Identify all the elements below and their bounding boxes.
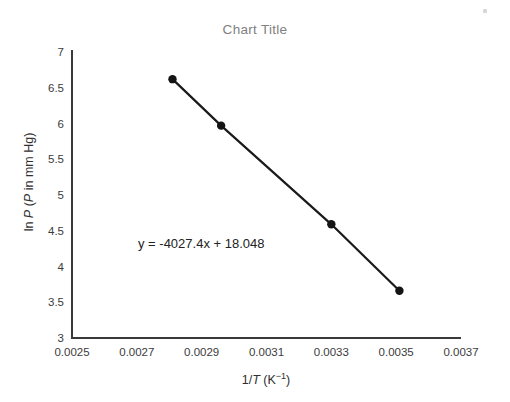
x-tick-label: 0.0031	[249, 346, 284, 358]
y-axis-title: ln P (P in mm Hg)	[22, 67, 36, 297]
data-series-plot	[0, 0, 510, 402]
chart-container: Chart Title 33.544.555.566.57 y = -4027.…	[0, 0, 510, 402]
data-point-marker	[217, 121, 225, 129]
data-point-marker	[395, 287, 403, 295]
x-tick-label: 0.0037	[443, 346, 478, 358]
trendline-equation-label: y = -4027.4x + 18.048	[138, 236, 264, 251]
data-point-marker	[168, 75, 176, 83]
data-point-marker	[327, 220, 335, 228]
x-tick-label: 0.0029	[184, 346, 219, 358]
x-axis-title: 1/T (K−1)	[71, 371, 461, 387]
x-tick-label: 0.0027	[119, 346, 154, 358]
x-tick-label: 0.0033	[314, 346, 349, 358]
series-line	[172, 79, 399, 291]
scan-artifact	[483, 9, 487, 13]
x-tick-label: 0.0025	[54, 346, 89, 358]
x-tick-label: 0.0035	[379, 346, 414, 358]
